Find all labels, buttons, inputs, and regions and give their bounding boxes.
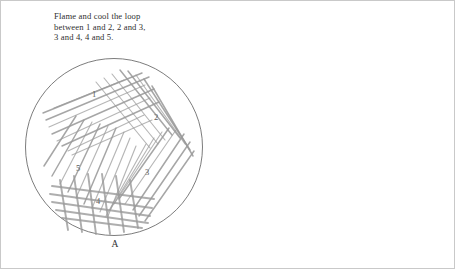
petri-dish-a: 1 2 3 4 5 (24, 58, 204, 236)
sector-label-a-5: 5 (76, 163, 80, 173)
sector-label-a-2: 2 (154, 112, 158, 122)
panel-b: Flame and cool the loop between 1 and 2,… (230, 0, 456, 270)
sector-label-a-1: 1 (92, 89, 96, 99)
plate-label-a: A (105, 239, 125, 249)
sector-label-a-3: 3 (145, 167, 149, 177)
caption-plate-a: Flame and cool the loop between 1 and 2,… (54, 11, 204, 43)
panel-a: Flame and cool the loop between 1 and 2,… (0, 0, 230, 270)
